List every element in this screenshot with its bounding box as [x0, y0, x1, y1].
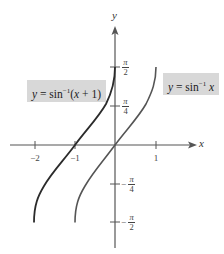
label-rest: + 1)	[79, 88, 101, 100]
frac-numerator: π	[123, 97, 127, 106]
x-tick-label-minus-1: −1	[66, 153, 84, 163]
frac-denominator: 2	[123, 68, 127, 77]
y-tick-label-neg-pi-over-4: − π 4	[121, 175, 135, 194]
y-tick-label-pi-over-4: π 4	[122, 97, 129, 116]
label-var-x: x	[206, 81, 214, 93]
label-arcsin-x-plus-1: y = sin−1(x + 1)	[27, 80, 106, 102]
frac-numerator: π	[129, 175, 133, 184]
y-tick-label-neg-pi-over-2: − π 2	[121, 213, 135, 232]
x-tick-label-1: 1	[150, 153, 162, 163]
x-axis-label: x	[199, 137, 204, 149]
y-tick-label-pi-over-2: π 2	[122, 58, 129, 77]
label-eq: = sin	[37, 88, 63, 100]
label-eq: = sin	[173, 81, 199, 93]
y-axis-label: y	[112, 9, 117, 21]
minus-sign: −	[121, 179, 126, 189]
x-tick-label-minus-2: −2	[26, 153, 44, 163]
frac-numerator: π	[123, 58, 127, 67]
frac-denominator: 2	[129, 223, 133, 232]
minus-sign: −	[121, 217, 126, 227]
graph-canvas	[0, 0, 224, 254]
frac-numerator: π	[129, 213, 133, 222]
frac-denominator: 4	[123, 107, 127, 116]
label-arcsin-x: y = sin−1 x	[163, 73, 219, 95]
frac-denominator: 4	[129, 185, 133, 194]
